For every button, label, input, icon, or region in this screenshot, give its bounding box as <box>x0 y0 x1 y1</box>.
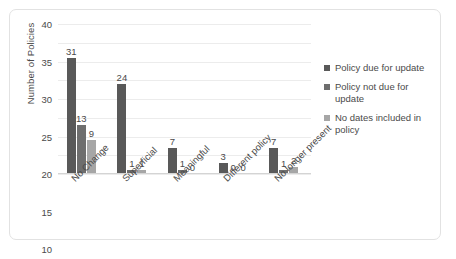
bar: 1 <box>279 24 288 174</box>
x-axis-labels: No ChangeSuperficialMeaningfulDifferent … <box>58 176 311 236</box>
bar-value-label: 31 <box>66 46 77 57</box>
legend-label: Policy not due for update <box>335 81 432 105</box>
bar-value-label: 7 <box>170 136 175 147</box>
y-axis-tick-label: 25 <box>41 131 52 142</box>
bar: 13 <box>77 24 86 174</box>
legend-item: Policy not due for update <box>324 81 432 105</box>
y-axis-tick-label: 40 <box>41 19 52 30</box>
legend-label: No dates included in policy <box>335 112 432 136</box>
y-axis-tick-label: 15 <box>41 206 52 217</box>
y-axis-tick-label: 35 <box>41 56 52 67</box>
legend-label: Policy due for update <box>335 62 424 74</box>
bar: 0 <box>229 24 238 174</box>
bar: 31 <box>67 24 76 174</box>
bar-rect <box>117 84 126 174</box>
legend-swatch-icon <box>324 65 330 71</box>
bar-value-label: 13 <box>76 113 87 124</box>
legend-item: No dates included in policy <box>324 112 432 136</box>
chart-container: Number of Policies 4035302520151050 3113… <box>9 9 441 240</box>
bar: 24 <box>117 24 126 174</box>
bar: 7 <box>168 24 177 174</box>
legend-item: Policy due for update <box>324 62 432 74</box>
bar: 1 <box>178 24 187 174</box>
bar-value-label: 3 <box>220 151 225 162</box>
bar: 7 <box>269 24 278 174</box>
bar-value-label: 24 <box>117 72 128 83</box>
legend: Policy due for updatePolicy not due for … <box>324 62 432 143</box>
bar: 1 <box>127 24 136 174</box>
y-axis-tick-label: 30 <box>41 94 52 105</box>
legend-swatch-icon <box>324 84 330 90</box>
y-axis-tick-label: 10 <box>41 244 52 255</box>
bar-value-label: 9 <box>89 128 94 139</box>
legend-swatch-icon <box>324 115 330 121</box>
bar: 3 <box>219 24 228 174</box>
y-axis-title: Number of Policies <box>25 4 36 124</box>
y-axis-tick-label: 20 <box>41 169 52 180</box>
bar-rect <box>67 58 76 174</box>
